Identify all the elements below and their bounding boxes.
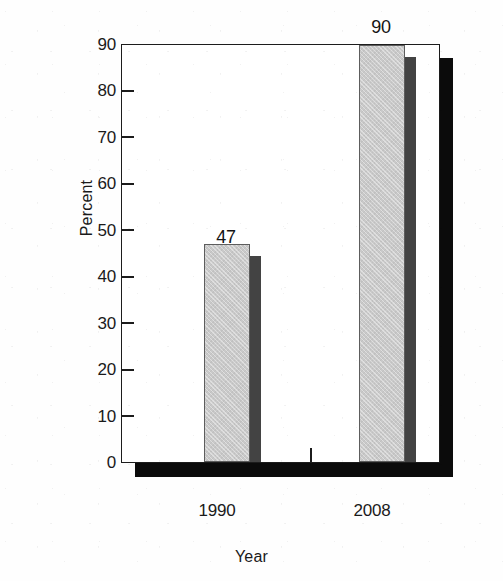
y-tick-mark-70 <box>122 136 134 138</box>
plot-area <box>121 44 440 463</box>
x-tick-label-2008: 2008 <box>325 502 419 519</box>
y-tick-mark-20 <box>122 369 134 371</box>
x-tick-mark-between-groups <box>310 448 312 462</box>
x-tick-label-1990: 1990 <box>170 502 264 519</box>
bar-side-2008 <box>404 57 416 462</box>
y-tick-mark-30 <box>122 322 134 324</box>
y-tick-mark-40 <box>122 276 134 278</box>
x-axis-title: Year <box>0 548 503 566</box>
frame-shadow-right <box>440 58 453 477</box>
y-tick-label-60: 60 <box>80 175 116 192</box>
y-tick-label-70: 70 <box>80 129 116 146</box>
y-tick-label-80: 80 <box>80 82 116 99</box>
bar-group-2008[interactable] <box>359 45 416 462</box>
y-tick-mark-60 <box>122 183 134 185</box>
bar-group-1990[interactable] <box>204 244 261 462</box>
y-tick-label-10: 10 <box>80 408 116 425</box>
bar-value-label-2008: 90 <box>343 18 419 36</box>
bar-chart-figure: Percent 90 80 70 60 50 40 30 20 10 0 <box>0 0 503 581</box>
bar-face-1990[interactable] <box>204 244 250 462</box>
y-tick-mark-80 <box>122 90 134 92</box>
y-axis-title: Percent <box>78 138 102 278</box>
y-tick-label-90: 90 <box>80 36 116 53</box>
frame-shadow-bottom <box>135 463 453 477</box>
y-tick-label-50: 50 <box>80 222 116 239</box>
y-tick-label-30: 30 <box>80 315 116 332</box>
bar-side-1990 <box>249 256 261 462</box>
y-tick-mark-10 <box>122 415 134 417</box>
y-tick-label-20: 20 <box>80 361 116 378</box>
y-tick-label-40: 40 <box>80 268 116 285</box>
bar-face-2008[interactable] <box>359 45 405 462</box>
y-tick-label-0: 0 <box>80 454 116 471</box>
y-tick-mark-50 <box>122 229 134 231</box>
